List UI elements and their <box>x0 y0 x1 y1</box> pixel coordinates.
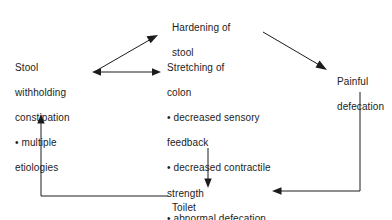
node-hardening-line-1: Hardening of <box>172 22 282 35</box>
node-stretching-line-2: colon <box>167 87 297 100</box>
node-stretching-line-1: Stretching of <box>167 62 297 75</box>
node-stool-withholding-line-1: Stool <box>15 62 107 75</box>
node-stool-withholding-line-5: etiologies <box>15 162 107 175</box>
node-toilet-line-1: Toilet <box>172 202 242 215</box>
diagram-canvas: Stool withholding constipation • multipl… <box>0 0 392 220</box>
node-stool-withholding-line-3: constipation <box>15 112 107 125</box>
node-stretching-line-5: • decreased contractile <box>167 162 297 175</box>
node-painful-defecation: Painful defecation <box>337 63 392 126</box>
node-painful-line-1: Painful <box>337 76 392 89</box>
node-stool-withholding: Stool withholding constipation • multipl… <box>15 49 107 188</box>
node-stretching-line-3: • decreased sensory <box>167 112 297 125</box>
node-painful-line-2: defecation <box>337 101 392 114</box>
node-stool-withholding-line-2: withholding <box>15 87 107 100</box>
node-toilet-avoidance: Toilet avoidance <box>172 189 242 220</box>
node-stretching-line-4: feedback <box>167 137 297 150</box>
node-stool-withholding-line-4: • multiple <box>15 137 107 150</box>
